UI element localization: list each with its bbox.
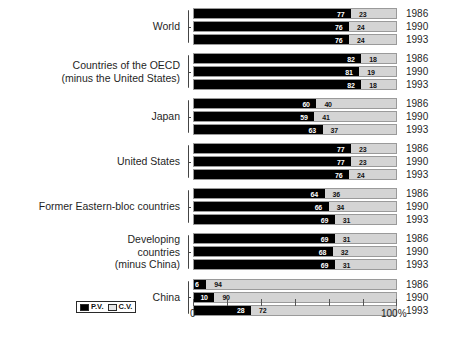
group-brace-icon	[186, 53, 193, 90]
row-year-label: 1986	[397, 188, 441, 199]
row-year-label: 1993	[397, 214, 441, 225]
bar-value-cv: 31	[343, 216, 350, 223]
bar-segment-pv	[194, 170, 349, 179]
bar-value-pv: 77	[337, 158, 344, 165]
bar-value-cv: 18	[369, 81, 376, 88]
bar-segment-pv	[194, 157, 351, 166]
chart-row: 76241990	[193, 21, 468, 32]
x-axis-tick	[227, 299, 228, 306]
legend-item-cv: C.V.	[108, 303, 133, 311]
bar-segment-pv	[194, 35, 349, 44]
stacked-bar: 694	[193, 279, 397, 290]
x-axis-tick	[396, 299, 397, 306]
bar-value-pv: 6	[195, 281, 199, 288]
bar-value-pv: 68	[319, 248, 326, 255]
legend-label-pv: P.V.	[91, 303, 104, 311]
stacked-bar: 7723	[193, 156, 397, 167]
bar-value-pv: 76	[335, 23, 342, 30]
group-brace-icon	[186, 188, 193, 225]
group-label: Japan	[0, 110, 186, 123]
x-axis-tick	[193, 299, 194, 306]
bar-segment-pv	[194, 80, 361, 89]
stacked-bar: 7624	[193, 21, 397, 32]
bar-value-pv: 69	[321, 216, 328, 223]
group-rows: 604019865941199063371993	[193, 98, 468, 135]
bar-value-pv: 69	[321, 235, 328, 242]
row-year-label: 1993	[397, 169, 441, 180]
chart-row: 63371993	[193, 124, 468, 135]
bar-segment-pv	[194, 189, 325, 198]
row-year-label: 1986	[397, 53, 441, 64]
bar-value-cv: 24	[357, 36, 364, 43]
chart-row: 82181993	[193, 79, 468, 90]
bar-value-pv: 81	[345, 68, 352, 75]
group-label: Former Eastern-bloc countries	[0, 200, 186, 213]
legend-swatch-cv-icon	[108, 304, 117, 311]
row-year-label: 1986	[397, 98, 441, 109]
chart-row: 77231986	[193, 8, 468, 19]
chart-footer: P.V. C.V. 0 100%	[0, 299, 468, 333]
row-year-label: 1993	[397, 259, 441, 270]
chart-row: 69311986	[193, 233, 468, 244]
group-rows: 772319867723199076241993	[193, 143, 468, 180]
chart-row: 64361986	[193, 188, 468, 199]
bar-value-cv: 23	[359, 158, 366, 165]
stacked-bar: 6931	[193, 214, 397, 225]
stacked-bar: 7723	[193, 8, 397, 19]
bar-segment-pv	[194, 234, 335, 243]
bar-segment-pv	[194, 215, 335, 224]
bar-segment-pv	[194, 202, 329, 211]
bar-value-cv: 24	[357, 171, 364, 178]
bar-value-cv: 40	[324, 100, 331, 107]
bar-value-cv: 24	[357, 23, 364, 30]
row-year-label: 1986	[397, 143, 441, 154]
row-year-label: 1986	[397, 233, 441, 244]
row-year-label: 1986	[397, 279, 441, 290]
row-year-label: 1990	[397, 246, 441, 257]
chart-row: 6941986	[193, 279, 468, 290]
x-axis: 0 100%	[193, 299, 397, 333]
bar-segment-pv	[194, 67, 359, 76]
bar-segment-pv	[194, 99, 316, 108]
bar-value-pv: 63	[309, 126, 316, 133]
bar-value-cv: 23	[359, 145, 366, 152]
x-axis-tick	[295, 299, 296, 306]
chart-group: Countries of the OECD (minus the United …	[0, 53, 468, 90]
bar-segment-pv	[194, 9, 351, 18]
chart-row: 77231990	[193, 156, 468, 167]
bar-value-pv: 77	[337, 10, 344, 17]
stacked-bar: 7624	[193, 34, 397, 45]
row-year-label: 1993	[397, 124, 441, 135]
stacked-bar-chart: World772319867624199076241993Countries o…	[0, 0, 468, 337]
chart-group: United States772319867723199076241993	[0, 143, 468, 180]
bar-value-pv: 66	[315, 203, 322, 210]
bar-segment-pv	[194, 125, 323, 134]
stacked-bar: 6634	[193, 201, 397, 212]
bar-value-cv: 41	[322, 113, 329, 120]
x-axis-label-min: 0	[190, 308, 196, 319]
group-rows: 693119866832199069311993	[193, 233, 468, 270]
chart-row: 69311993	[193, 259, 468, 270]
stacked-bar: 6931	[193, 259, 397, 270]
group-label: World	[0, 20, 186, 33]
bar-segment-pv	[194, 22, 349, 31]
bar-value-cv: 37	[331, 126, 338, 133]
group-brace-icon	[186, 8, 193, 45]
stacked-bar: 6040	[193, 98, 397, 109]
bar-value-cv: 31	[343, 261, 350, 268]
stacked-bar: 8218	[193, 79, 397, 90]
stacked-bar: 7723	[193, 143, 397, 154]
chart-legend: P.V. C.V.	[76, 301, 136, 313]
x-axis-tick	[261, 299, 262, 306]
row-year-label: 1990	[397, 156, 441, 167]
chart-row: 77231986	[193, 143, 468, 154]
legend-label-cv: C.V.	[119, 303, 133, 311]
bar-value-cv: 36	[333, 190, 340, 197]
chart-row: 76241993	[193, 169, 468, 180]
bar-segment-pv	[194, 247, 333, 256]
group-label: Countries of the OECD (minus the United …	[0, 59, 186, 84]
bar-value-pv: 76	[335, 171, 342, 178]
chart-row: 82181986	[193, 53, 468, 64]
bar-value-cv: 31	[343, 235, 350, 242]
x-axis-tick	[363, 299, 364, 306]
